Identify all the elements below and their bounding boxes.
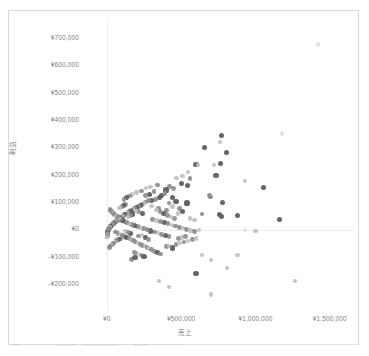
data-point (143, 235, 148, 240)
data-point (122, 197, 127, 202)
data-point (167, 285, 171, 289)
data-point (218, 161, 223, 166)
data-point (132, 255, 137, 260)
x-tick-label: ¥1,000,000 (220, 316, 290, 323)
data-point (112, 220, 117, 225)
y-tick-label: ¥600,000 (9, 62, 79, 69)
data-point (110, 222, 115, 227)
data-point (200, 212, 205, 217)
data-point (125, 211, 129, 215)
data-point (133, 209, 137, 213)
x-tick-label: ¥1,500,000 (295, 316, 365, 323)
data-point (209, 258, 213, 262)
data-point (280, 131, 284, 135)
data-point (217, 212, 222, 217)
data-point (154, 208, 158, 212)
data-point (136, 204, 141, 209)
data-point (177, 241, 181, 245)
data-point (118, 217, 123, 222)
data-point (167, 201, 172, 206)
data-point (127, 194, 132, 199)
data-point (121, 213, 126, 218)
data-point (167, 244, 171, 248)
y-tick-label: ¥400,000 (9, 117, 79, 124)
data-point (202, 145, 207, 150)
data-point (109, 209, 113, 213)
data-point (176, 236, 181, 241)
data-point (277, 217, 282, 222)
data-point (138, 242, 143, 247)
data-point (139, 189, 144, 194)
data-point (126, 215, 130, 219)
data-point (218, 140, 222, 144)
data-point (180, 174, 184, 178)
data-point (110, 223, 114, 227)
data-point (131, 238, 136, 243)
data-point (116, 231, 121, 236)
data-point (127, 209, 132, 214)
data-point (122, 234, 127, 239)
data-point (129, 257, 134, 262)
data-point (188, 176, 193, 181)
data-point (144, 186, 148, 190)
data-point (132, 250, 137, 255)
x-axis-title: 売上 (0, 330, 369, 337)
data-point (316, 42, 320, 46)
data-point (174, 176, 178, 180)
data-point (158, 252, 163, 257)
data-point (139, 253, 144, 258)
data-point (220, 200, 225, 205)
data-point (235, 253, 239, 257)
data-point (156, 231, 160, 235)
data-point (113, 240, 117, 244)
gridline-x-zero (107, 22, 108, 309)
data-point (209, 292, 213, 296)
data-point (208, 195, 213, 200)
data-point (173, 224, 178, 229)
data-point (192, 218, 196, 222)
data-point (224, 150, 229, 155)
data-point (123, 202, 128, 207)
data-point (155, 250, 160, 255)
data-point (108, 224, 113, 229)
data-point (127, 236, 132, 241)
data-point (124, 220, 129, 225)
data-point (113, 219, 118, 224)
data-point (154, 218, 158, 222)
data-point (177, 206, 182, 211)
data-point (149, 198, 154, 203)
data-point (170, 204, 174, 208)
baseline-artifact-1 (12, 345, 20, 346)
data-point (185, 183, 190, 188)
data-point (196, 163, 200, 167)
data-point (117, 216, 121, 220)
data-point (120, 214, 124, 218)
data-point (119, 205, 124, 210)
data-point (128, 231, 133, 236)
data-point (108, 224, 113, 229)
data-point (110, 242, 115, 247)
data-point (140, 233, 144, 237)
data-point (130, 211, 135, 216)
y-tick-label: ¥300,000 (9, 144, 79, 151)
data-point (157, 279, 161, 283)
data-point (110, 210, 115, 215)
data-point (157, 195, 162, 200)
data-point (235, 213, 240, 218)
data-point (167, 234, 172, 239)
data-point (140, 243, 145, 248)
data-point (166, 221, 171, 226)
data-point (118, 232, 122, 236)
data-point (111, 221, 116, 226)
data-point (120, 233, 125, 238)
data-point (182, 240, 187, 245)
data-point (184, 200, 189, 205)
data-point (212, 163, 216, 167)
data-point (159, 193, 164, 198)
data-point (135, 224, 140, 229)
data-point (140, 211, 145, 216)
scatter-plot-area[interactable]: ¥700,000¥600,000¥500,000¥400,000¥300,000… (9, 11, 360, 346)
data-point (121, 203, 126, 208)
data-point (147, 192, 152, 197)
data-point (152, 249, 157, 254)
